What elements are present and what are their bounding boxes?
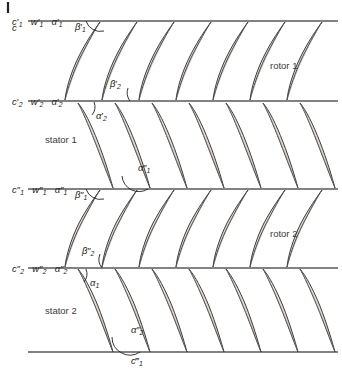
blade-stator2: [189, 269, 224, 352]
sym-alpha-1-double-prime: α″1: [55, 184, 68, 196]
blade-rotor1-camber: [65, 22, 100, 100]
blade-stator1: [152, 103, 187, 188]
angle-label-beta-1-prime: β′1: [75, 21, 86, 33]
row-label-rotor-1: rotor 1: [270, 60, 297, 71]
angle-label-alpha-2-double-prime: α″2: [131, 324, 143, 336]
sym-alpha-2-double-prime: α″2: [55, 263, 68, 275]
blade-rotor1-camber: [213, 22, 248, 100]
blade-rotor1: [139, 22, 174, 100]
sym-w-2-double-prime: w″2: [32, 263, 46, 275]
sym-c-1-double-prime: c″1: [12, 184, 24, 196]
sym-w-2-prime: w′2: [31, 96, 44, 108]
blade-stator2: [152, 269, 187, 352]
angle-label-alpha-1-double-prime: α″1: [138, 162, 150, 174]
blade-stator2: [226, 269, 261, 352]
blade-stator2: [263, 269, 298, 352]
sym-alpha-2-prime: α′2: [52, 96, 63, 108]
blade-stator2: [300, 269, 335, 352]
row-label-stator-1: stator 1: [45, 134, 77, 145]
angle-label-beta-1-double-prime: β″1: [75, 189, 87, 201]
arc-beta-2-prime: [127, 88, 130, 101]
arc-beta-2-double-prime: [99, 254, 102, 268]
angle-arc-group: [84, 21, 148, 355]
sym-w-1-double-prime: w″1: [32, 184, 46, 196]
station-row-4: c″2 w″2 α″2: [12, 263, 68, 275]
blade-rotor1: [65, 22, 100, 100]
blade-stator2: [115, 269, 150, 352]
station-row-3: c″1 w″1 α″1: [12, 184, 68, 196]
blade-rotor2-camber: [213, 190, 248, 267]
blade-rotor1: [213, 22, 248, 100]
blade-stator1: [226, 103, 261, 188]
blade-rotor2: [176, 190, 211, 267]
blade-stator1: [300, 103, 335, 188]
blade-rotor2-camber: [139, 190, 174, 267]
blade-stator1: [115, 103, 150, 188]
cascade-diagram-figure: c c′1 w′1 α′1 c′2 w′2 α′2 c″1 w″1 α″1 c″…: [0, 0, 342, 376]
blade-rotor1-camber: [139, 22, 174, 100]
blade-rotor1: [176, 22, 211, 100]
blade-rotor2: [213, 190, 248, 267]
outlet-label-c-1-triple-prime: c‴1: [131, 355, 143, 367]
stator-1-blade-group: [78, 103, 335, 188]
angle-label-beta-2-double-prime: β″2: [82, 245, 94, 257]
row-label-rotor-2: rotor 2: [270, 228, 297, 239]
sym-c-2-prime: c′2: [12, 96, 23, 108]
blade-stator1: [263, 103, 298, 188]
angle-label-alpha-1: α1: [90, 277, 99, 289]
stator-2-blade-group: [78, 269, 335, 352]
blade-rotor2: [102, 190, 137, 267]
sym-w-1-prime: w′1: [31, 16, 44, 28]
blade-rotor2-camber: [102, 190, 137, 267]
blade-rotor1-camber: [176, 22, 211, 100]
sym-c-2-double-prime: c″2: [12, 263, 24, 275]
arc-alpha-2-prime: [92, 102, 95, 115]
sym-c-1-prime: c′1: [12, 16, 23, 28]
sym-alpha-1-prime: α′1: [52, 16, 63, 28]
angle-label-alpha-2-prime: α′2: [96, 110, 107, 122]
blade-stator1: [189, 103, 224, 188]
station-row-1: c′1 w′1 α′1: [12, 16, 63, 28]
blade-rotor2-camber: [176, 190, 211, 267]
blade-rotor2: [139, 190, 174, 267]
station-row-2: c′2 w′2 α′2: [12, 96, 63, 108]
row-label-stator-2: stator 2: [45, 305, 77, 316]
angle-label-beta-2-prime: β′2: [110, 78, 121, 90]
